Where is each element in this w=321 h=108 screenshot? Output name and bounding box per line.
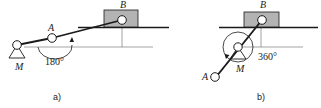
pivot-joint [234,43,242,51]
angle-label: 180° [45,56,64,67]
label-b: B [120,0,126,10]
label-m: M [14,61,24,72]
caption-a: a) [53,92,61,102]
pivot-joint [13,41,22,50]
connecting-rod [52,20,122,38]
arrow-icon [225,54,230,59]
joint-a [211,73,220,82]
joint-b [118,16,127,25]
mechanism-diagram: M A B 180° a) M A B 360° b) [0,0,321,108]
panel-a: M A B 180° a) [9,0,169,102]
label-m: M [235,63,245,74]
joint-a [48,34,57,43]
label-a: A [201,71,209,82]
crank-link [17,38,52,45]
joint-b [258,16,267,25]
panel-b: M A B 360° b) [201,0,318,102]
angle-label: 360° [258,51,277,62]
label-a: A [47,22,55,33]
label-b: B [260,0,266,10]
arrow-icon [70,37,75,42]
caption-b: b) [257,92,265,102]
